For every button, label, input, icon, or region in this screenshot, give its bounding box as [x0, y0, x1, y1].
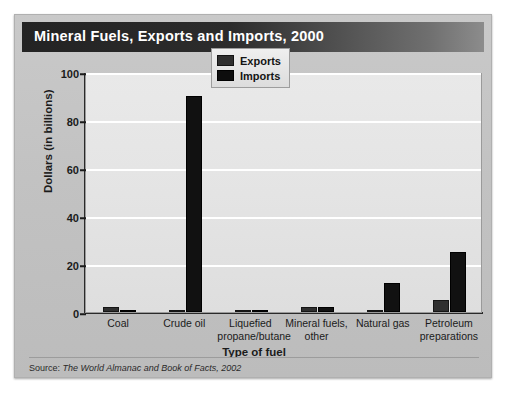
- y-axis-tick-mark: [80, 169, 86, 171]
- bar-exports-0: [103, 307, 119, 312]
- y-axis-tick-label: 80: [67, 116, 79, 128]
- y-axis-title: Dollars (in billions): [42, 89, 54, 193]
- plot-area: 020406080100: [85, 73, 482, 313]
- gridline: [86, 121, 481, 123]
- x-axis-tick-line: Natural gas: [350, 317, 416, 330]
- source-note: Source: The World Almanac and Book of Fa…: [29, 363, 241, 373]
- x-axis-tick-label: Liquefiedpropane/butane: [217, 317, 283, 342]
- x-axis-tick-line: Crude oil: [151, 317, 217, 330]
- gridline: [86, 217, 481, 219]
- legend-item-imports: Imports: [217, 68, 281, 83]
- footer-divider: [29, 357, 479, 358]
- page-title: Mineral Fuels, Exports and Imports, 2000: [34, 28, 324, 44]
- y-axis-tick-label: 100: [61, 68, 79, 80]
- bar-exports-1: [169, 310, 185, 313]
- bar-exports-2: [235, 310, 251, 313]
- chart-card: Mineral Fuels, Exports and Imports, 2000…: [14, 14, 492, 378]
- legend-item-exports: Exports: [217, 53, 281, 68]
- x-axis-tick-label: Petroleumpreparations: [416, 317, 482, 342]
- y-axis-tick-mark: [80, 313, 86, 315]
- bar-exports-3: [301, 307, 317, 312]
- legend-label-imports: Imports: [240, 70, 280, 82]
- y-axis-tick-label: 40: [67, 212, 79, 224]
- bar-imports-2: [252, 310, 268, 313]
- y-axis-tick-mark: [80, 121, 86, 123]
- bar-imports-3: [318, 307, 334, 312]
- source-prefix: Source:: [29, 363, 60, 373]
- x-axis-tick-line: other: [284, 330, 350, 343]
- bar-exports-4: [367, 310, 383, 313]
- y-axis-tick-label: 0: [73, 308, 79, 320]
- bar-imports-5: [450, 252, 466, 312]
- bar-imports-1: [186, 96, 202, 312]
- bar-imports-0: [120, 310, 136, 313]
- y-axis-tick-label: 20: [67, 260, 79, 272]
- x-axis-tick-line: Mineral fuels,: [284, 317, 350, 330]
- x-axis-tick-line: propane/butane: [217, 330, 283, 343]
- legend: Exports Imports: [211, 48, 290, 88]
- x-axis-tick-line: Petroleum: [416, 317, 482, 330]
- x-axis-tick-line: preparations: [416, 330, 482, 343]
- legend-label-exports: Exports: [240, 55, 281, 67]
- bar-imports-4: [384, 283, 400, 312]
- legend-swatch-exports-icon: [217, 55, 234, 66]
- x-axis-tick-label: Coal: [85, 317, 151, 330]
- y-axis-tick-mark: [80, 73, 86, 75]
- legend-swatch-imports-icon: [217, 70, 234, 81]
- y-axis-tick-mark: [80, 265, 86, 267]
- x-axis-tick-label: Mineral fuels,other: [284, 317, 350, 342]
- gridline: [86, 169, 481, 171]
- source-citation: The World Almanac and Book of Facts, 200…: [63, 363, 242, 373]
- y-axis-tick-mark: [80, 217, 86, 219]
- x-axis-tick-label: Natural gas: [350, 317, 416, 330]
- gridline: [86, 265, 481, 267]
- x-axis-tick-label: Crude oil: [151, 317, 217, 330]
- bar-exports-5: [433, 300, 449, 312]
- y-axis-tick-label: 60: [67, 164, 79, 176]
- x-axis-tick-line: Coal: [85, 317, 151, 330]
- x-axis-tick-line: Liquefied: [217, 317, 283, 330]
